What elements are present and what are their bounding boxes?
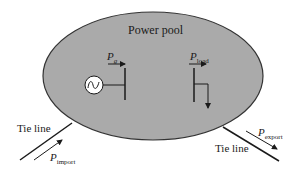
power-pool-diagram: Power pool Pg Pload Tie line Pimport T [0,0,301,173]
tie-line-right-label: Tie line [215,142,249,154]
tie-line-import: Tie line Pimport [17,122,75,166]
ac-generator-icon [85,76,103,94]
import-power-label: Pimport [49,151,75,166]
tie-line-left-label: Tie line [17,122,51,134]
pool-title: Power pool [128,23,184,37]
tie-line-export: Tie line Pexport [215,126,283,161]
export-power-label: Pexport [257,126,283,141]
import-flow-arrow [34,140,62,160]
